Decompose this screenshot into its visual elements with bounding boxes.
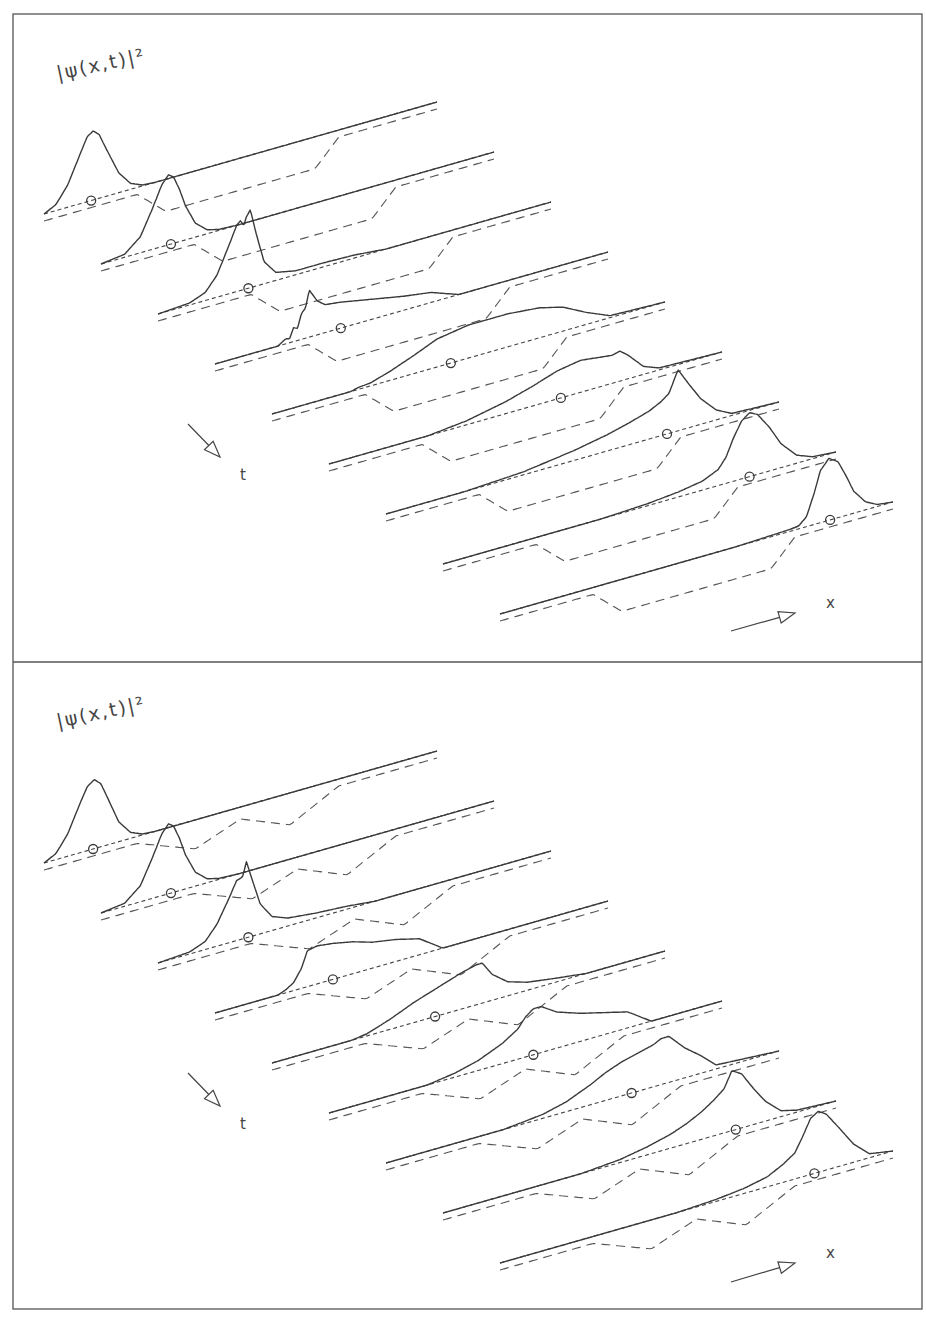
potential-profile (272, 309, 665, 421)
panel-top-square-well: |ψ(x,t)|² t x (44, 44, 893, 631)
ylabel-psi-squared: |ψ(x,t)|² (54, 44, 147, 85)
t-axis-label: t (240, 466, 246, 484)
arrow-right-icon (731, 1262, 795, 1282)
x-axis-label: x (826, 1244, 835, 1262)
potential-profile (443, 1108, 836, 1220)
time-slice (443, 413, 836, 571)
potential-profile (386, 1058, 779, 1170)
x-axis-label: x (826, 594, 835, 612)
circle-marker-icon (810, 1169, 819, 1178)
time-slice (329, 351, 722, 471)
potential-profile (44, 758, 437, 870)
probability-density-curve (443, 413, 836, 564)
time-slice (386, 1037, 779, 1171)
t-axis-label: t (240, 1115, 246, 1133)
time-slice (101, 801, 494, 920)
potential-profile (329, 1008, 722, 1120)
time-slice (44, 751, 437, 870)
probability-density-curve (500, 458, 893, 614)
potential-profile (386, 409, 779, 521)
probability-density-curve (44, 751, 437, 863)
time-slice (443, 1071, 836, 1220)
potential-profile (443, 459, 836, 571)
waterfall-slices (44, 102, 893, 621)
time-slice (158, 851, 551, 970)
arrow-right-icon (731, 612, 795, 631)
time-slice (329, 1001, 722, 1120)
potential-profile (158, 209, 551, 321)
panel-bottom-double-well: |ψ(x,t)|² t x (44, 692, 893, 1282)
potential-profile (101, 808, 494, 920)
probability-density-curve (44, 102, 437, 214)
probability-density-curve (443, 1071, 836, 1213)
circle-marker-icon (662, 429, 671, 438)
time-slice (44, 102, 437, 221)
probability-density-curve (386, 370, 779, 514)
circle-marker-icon (336, 324, 345, 333)
time-slice (272, 951, 665, 1070)
probability-density-curve (101, 801, 494, 913)
wavepacket-figure: |ψ(x,t)|² t x |ψ(x,t)|² t x (0, 0, 926, 1326)
waterfall-slices (44, 751, 893, 1270)
time-slice (158, 202, 551, 321)
time-slice (386, 370, 779, 521)
arrow-down-right-icon (188, 424, 220, 457)
arrow-down-right-icon (188, 1073, 220, 1106)
potential-profile (158, 858, 551, 970)
potential-profile (101, 159, 494, 271)
time-slice (272, 302, 665, 421)
potential-profile (215, 908, 608, 1020)
probability-density-curve (386, 1037, 779, 1164)
potential-profile (329, 359, 722, 471)
potential-profile (44, 109, 437, 221)
time-slice (101, 152, 494, 271)
ylabel-psi-squared: |ψ(x,t)|² (54, 692, 147, 733)
time-slice (215, 901, 608, 1020)
potential-profile (215, 259, 608, 371)
